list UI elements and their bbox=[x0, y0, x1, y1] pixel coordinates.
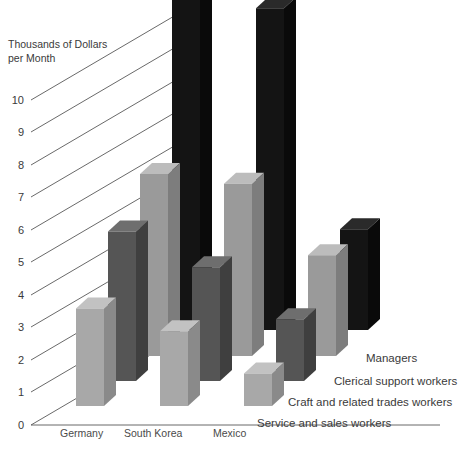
xtick-mexico: Mexico bbox=[213, 427, 246, 439]
ytick-0: 0 bbox=[18, 419, 24, 431]
bar-mexico-service bbox=[244, 363, 284, 407]
ytick-1: 1 bbox=[18, 386, 24, 398]
legend-label-managers: Managers bbox=[366, 352, 417, 364]
bar-germany-service bbox=[76, 298, 116, 407]
y-axis-title-line1: Thousands of Dollars bbox=[8, 38, 107, 50]
legend-label-craft: Craft and related trades workers bbox=[288, 396, 453, 408]
xtick-south-korea: South Korea bbox=[124, 427, 183, 439]
bar-chart-3d: 10 9 8 7 6 5 4 3 2 1 0 Thousands of Doll… bbox=[0, 0, 472, 453]
ytick-9: 9 bbox=[18, 126, 24, 138]
legend-label-service: Service and sales workers bbox=[257, 417, 391, 429]
ytick-7: 7 bbox=[18, 191, 24, 203]
legend-label-clerical: Clerical support workers bbox=[334, 375, 458, 387]
ytick-2: 2 bbox=[18, 354, 24, 366]
ytick-8: 8 bbox=[18, 159, 24, 171]
ytick-10: 10 bbox=[12, 94, 24, 106]
ytick-5: 5 bbox=[18, 256, 24, 268]
y-axis-title-line2: per Month bbox=[8, 52, 55, 64]
ytick-3: 3 bbox=[18, 321, 24, 333]
xtick-germany: Germany bbox=[60, 427, 104, 439]
chart-canvas: 10 9 8 7 6 5 4 3 2 1 0 Thousands of Doll… bbox=[0, 0, 472, 453]
bar-southkorea-service bbox=[160, 320, 200, 406]
ytick-4: 4 bbox=[18, 289, 24, 301]
ytick-6: 6 bbox=[18, 224, 24, 236]
gridline-10 bbox=[31, 5, 193, 100]
